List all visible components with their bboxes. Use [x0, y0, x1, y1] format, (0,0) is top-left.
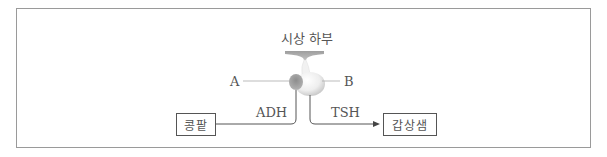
tsh-arrowhead-icon: [373, 121, 380, 127]
adh-label: ADH: [256, 106, 287, 119]
label-a: A: [230, 75, 239, 88]
label-b: B: [344, 75, 354, 88]
hypothalamus-label: 시상 하부: [281, 32, 333, 45]
posterior-pituitary-shape: [289, 74, 303, 90]
tsh-label: TSH: [331, 106, 360, 119]
thyroid-box: 갑상샘: [383, 113, 437, 136]
kidney-box: 콩팥: [176, 113, 216, 136]
pituitary-diagram: [0, 0, 607, 157]
hypothalamus-shape: [285, 51, 324, 74]
